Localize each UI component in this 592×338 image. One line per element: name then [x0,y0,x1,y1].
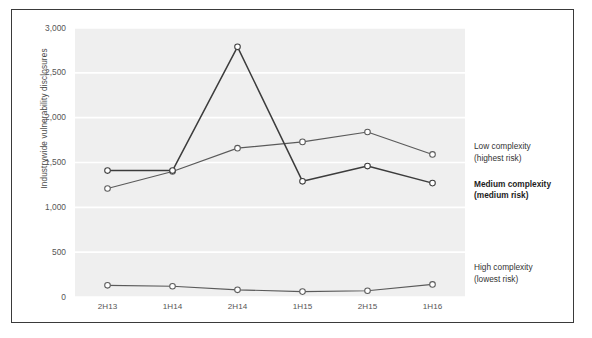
data-point-marker [430,180,436,186]
data-point-marker [235,145,241,151]
legend-label-primary: High complexity [474,262,533,272]
data-point-marker [235,287,241,293]
data-point-marker [300,289,306,295]
data-point-marker [430,152,436,158]
x-axis-tick-label: 2H14 [208,302,268,311]
x-axis-tick-label: 1H14 [143,302,203,311]
y-axis-tick-label: 500 [20,247,66,257]
legend-label-primary: Low complexity [474,141,531,151]
x-axis-tick-label: 2H15 [338,302,398,311]
legend-label-secondary: (lowest risk) [474,274,574,285]
data-point-marker [365,163,371,169]
data-point-marker [365,129,371,135]
x-axis-tick-label: 1H15 [273,302,333,311]
data-point-marker [300,179,306,185]
data-point-marker [430,282,436,288]
plot-area [75,28,465,297]
legend-entry: Low complexity(highest risk) [474,141,574,163]
legend-label-secondary: (highest risk) [474,153,574,164]
data-point-marker [170,283,176,289]
data-point-marker [105,168,111,174]
x-axis-tick-label: 1H16 [403,302,463,311]
legend-entry: High complexity(lowest risk) [474,262,574,284]
line-chart-svg [75,28,465,297]
legend-entry: Medium complexity(medium risk) [474,179,574,201]
y-axis-title: Industrywide vulnerability disclosures [40,21,49,217]
data-point-marker [365,288,371,294]
legend-label-secondary: (medium risk) [474,190,574,201]
data-point-marker [170,168,176,174]
chart-figure-frame: Industrywide vulnerability disclosures 0… [11,9,574,323]
x-axis-tick-label: 2H13 [78,302,138,311]
series-layer [105,44,436,294]
data-point-marker [235,44,241,50]
y-axis-tick-label: 0 [20,292,66,302]
chart-legend: Low complexity(highest risk)Medium compl… [474,10,575,324]
legend-label-primary: Medium complexity [474,179,551,189]
data-point-marker [300,139,306,145]
gridlines [75,28,465,297]
data-point-marker [105,186,111,192]
data-point-marker [105,283,111,289]
